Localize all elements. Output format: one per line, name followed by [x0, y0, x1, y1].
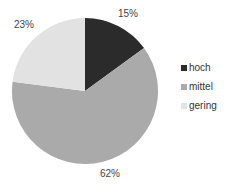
- label-mittel: 62%: [100, 168, 120, 179]
- label-hoch: 15%: [118, 8, 138, 19]
- legend-item-mittel: mittel: [181, 77, 217, 96]
- legend-item-gering: gering: [181, 96, 217, 115]
- legend: hoch mittel gering: [181, 58, 217, 115]
- swatch-hoch: [181, 65, 187, 71]
- legend-label: gering: [189, 100, 217, 111]
- legend-item-hoch: hoch: [181, 58, 217, 77]
- label-gering: 23%: [14, 19, 34, 30]
- legend-label: mittel: [189, 81, 213, 92]
- legend-label: hoch: [189, 62, 211, 73]
- swatch-mittel: [181, 84, 187, 90]
- swatch-gering: [181, 103, 187, 109]
